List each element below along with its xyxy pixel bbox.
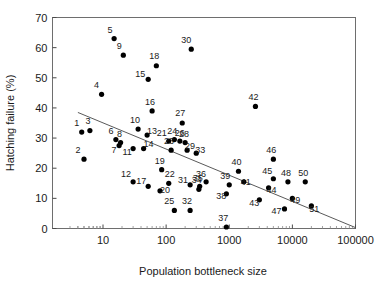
y-tick-label: 30: [35, 132, 47, 144]
data-point-label: 39: [220, 171, 230, 181]
data-point-label: 20: [160, 185, 170, 195]
data-point: [180, 120, 185, 125]
data-point-label: 7: [112, 145, 117, 155]
data-point: [303, 179, 308, 184]
x-tick-label: 1000: [217, 234, 241, 246]
data-point-label: 15: [135, 69, 145, 79]
data-point-label: 1: [74, 118, 79, 128]
data-point-label: 16: [145, 97, 155, 107]
x-tick-label: 10: [97, 234, 109, 246]
data-point: [121, 53, 126, 58]
data-point-label: 31: [178, 175, 188, 185]
data-point-label: 10: [130, 115, 140, 125]
data-point: [81, 157, 86, 162]
data-point-label: 43: [249, 198, 259, 208]
data-point-label: 3: [85, 116, 90, 126]
y-tick-label: 70: [35, 12, 47, 24]
data-point: [169, 148, 174, 153]
y-axis-ticks: [53, 18, 57, 229]
data-point-label: 29: [185, 141, 195, 151]
data-point: [131, 179, 136, 184]
y-tick-label: 40: [35, 102, 47, 114]
data-point-label: 30: [181, 35, 191, 45]
data-point-label: 2: [75, 145, 80, 155]
data-point: [172, 208, 177, 213]
data-point-label: 51: [309, 204, 319, 214]
data-point-labels: 1234567891011121314151617181920212223242…: [74, 25, 319, 223]
data-point-label: 50: [298, 168, 308, 178]
chart-canvas: 010203040506070 10100100010000100000 123…: [0, 0, 381, 288]
data-point-label: 44: [267, 185, 277, 195]
data-point-label: 27: [175, 108, 185, 118]
y-tick-label: 0: [41, 223, 47, 235]
data-point-label: 19: [155, 156, 165, 166]
x-tick-label: 100: [157, 234, 175, 246]
data-point: [150, 108, 155, 113]
data-point: [177, 138, 182, 143]
data-point-label: 13: [147, 126, 157, 136]
data-point-label: 12: [121, 169, 131, 179]
data-point-label: 32: [182, 196, 192, 206]
data-point-label: 9: [117, 41, 122, 51]
data-point-label: 18: [149, 51, 159, 61]
data-point-label: 28: [179, 129, 189, 139]
y-axis-title: Hatching failure (%): [4, 75, 16, 172]
data-point: [188, 208, 193, 213]
data-point-label: 46: [266, 145, 276, 155]
data-point-label: 8: [117, 129, 122, 139]
data-point: [136, 126, 141, 131]
data-point-label: 42: [248, 92, 258, 102]
data-point: [253, 104, 258, 109]
data-point-label: 41: [241, 177, 251, 187]
y-tick-label: 60: [35, 42, 47, 54]
data-point-label: 4: [94, 80, 99, 90]
plot-frame: [53, 18, 356, 229]
data-point: [87, 128, 92, 133]
data-point-label: 38: [216, 191, 226, 201]
data-point-label: 36: [196, 169, 206, 179]
data-point-label: 6: [108, 126, 113, 136]
y-tick-label: 10: [35, 192, 47, 204]
data-point-label: 45: [262, 166, 272, 176]
data-point-label: 48: [281, 168, 291, 178]
data-point: [271, 157, 276, 162]
x-tick-label: 100000: [337, 234, 374, 246]
y-axis-tick-labels: 010203040506070: [35, 12, 47, 235]
y-tick-label: 50: [35, 72, 47, 84]
data-point-label: 37: [218, 213, 228, 223]
x-tick-label: 10000: [277, 234, 308, 246]
data-point-label: 14: [144, 139, 154, 149]
data-point: [285, 179, 290, 184]
data-point: [159, 167, 164, 172]
data-point: [224, 224, 229, 229]
data-point-label: 23: [164, 136, 174, 146]
data-point: [79, 129, 84, 134]
data-point-label: 25: [164, 196, 174, 206]
data-point: [146, 184, 151, 189]
data-points: [79, 36, 314, 230]
data-point-label: 17: [136, 176, 146, 186]
data-point: [282, 206, 287, 211]
data-point: [227, 182, 232, 187]
data-point-label: 47: [271, 206, 281, 216]
data-point: [204, 179, 209, 184]
data-point: [146, 77, 151, 82]
data-point-label: 33: [195, 145, 205, 155]
data-point: [99, 92, 104, 97]
x-axis-title: Population bottleneck size: [139, 265, 267, 277]
data-point-label: 22: [165, 169, 175, 179]
data-point-label: 49: [290, 195, 300, 205]
data-point: [236, 169, 241, 174]
data-point-label: 40: [231, 157, 241, 167]
x-axis-tick-labels: 10100100010000100000: [97, 234, 374, 246]
data-point: [154, 63, 159, 68]
data-point: [189, 47, 194, 52]
scatter-plot-figure: 010203040506070 10100100010000100000 123…: [0, 0, 381, 288]
data-point: [271, 176, 276, 181]
data-point-label: 11: [122, 147, 131, 157]
data-point: [118, 140, 123, 145]
data-point-label: 5: [108, 25, 113, 35]
y-tick-label: 20: [35, 162, 47, 174]
